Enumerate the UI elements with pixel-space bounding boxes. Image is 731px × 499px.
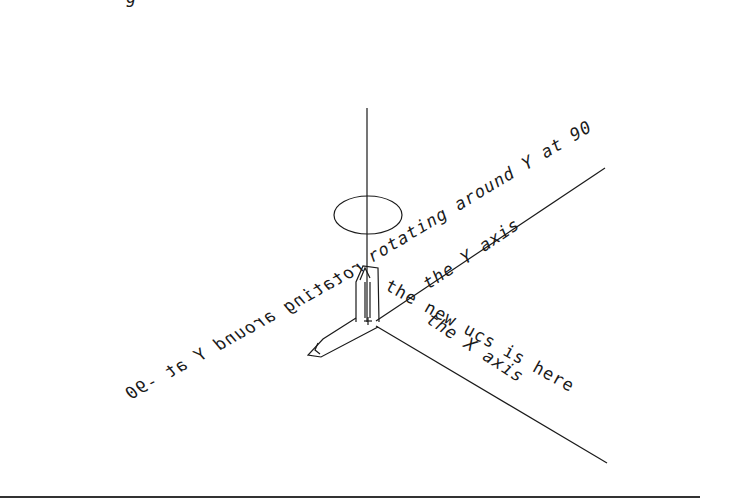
ucs-horizontal-arrowhead-icon — [315, 343, 320, 354]
mirrored-rotation-note: rotating around Y at -90 — [121, 256, 367, 404]
cut-off-text-fragment: g — [126, 0, 137, 7]
ucs-note-label: the new ucs is here — [382, 275, 578, 396]
ucs-diagram-canvas: g rotating around Y at 90 rotating aroun… — [0, 0, 731, 499]
mirrored-rotation-note-label: rotating around Y at -90 — [121, 256, 367, 404]
rotation-ellipse — [334, 196, 402, 234]
